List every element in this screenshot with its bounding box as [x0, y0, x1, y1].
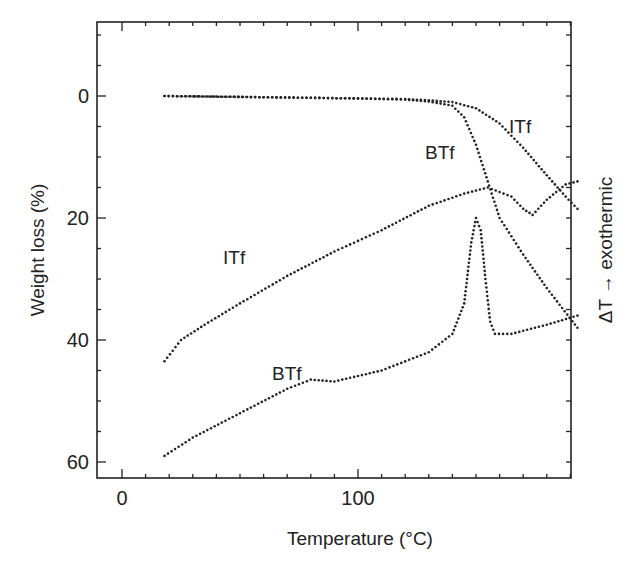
series-itf-weight-loss-tga- [163, 95, 579, 210]
x-ticks [122, 22, 570, 478]
plot-frame [97, 22, 571, 478]
y-axis-title: Weight loss (%) [27, 184, 48, 317]
y-ticks [97, 35, 106, 462]
svg-text:0: 0 [78, 85, 89, 107]
svg-text:100: 100 [341, 487, 374, 509]
series-itf-dta [163, 180, 579, 363]
svg-text:0: 0 [116, 487, 127, 509]
label-tga-btf: BTf [425, 142, 455, 163]
svg-text:40: 40 [67, 329, 89, 351]
svg-text:60: 60 [67, 451, 89, 473]
data-series [163, 95, 579, 458]
label-tga-itf: ITf [509, 116, 532, 137]
y2-axis-title: ΔT → exothermic [595, 177, 616, 323]
svg-text:20: 20 [67, 207, 89, 229]
x-tick-labels: 0100 [116, 487, 374, 509]
chart: 0100 0204060 Temperature (°C) Weight los… [0, 0, 639, 568]
label-dta-itf: ITf [223, 247, 246, 268]
x-axis-title: Temperature (°C) [287, 528, 433, 549]
y-tick-labels: 0204060 [67, 85, 89, 473]
label-dta-btf: BTf [272, 363, 302, 384]
